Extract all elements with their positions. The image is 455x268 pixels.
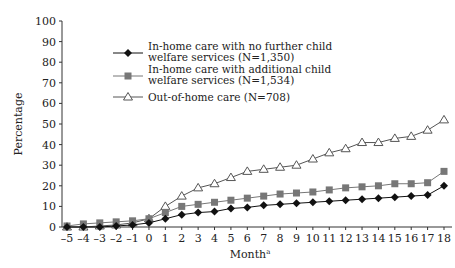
- series-line: [67, 171, 444, 226]
- diamond-marker: [124, 49, 132, 57]
- diamond-marker: [325, 197, 333, 205]
- x-tick-label: –2: [110, 232, 123, 245]
- diamond-marker: [342, 196, 350, 204]
- y-tick-label: 70: [42, 77, 56, 90]
- series-diamond: [63, 182, 448, 231]
- triangle-marker: [423, 126, 432, 133]
- y-tick-label: 60: [42, 97, 56, 110]
- x-axis-title: Montha: [230, 248, 271, 261]
- y-tick-label: 100: [35, 15, 56, 28]
- diamond-marker: [178, 211, 186, 219]
- triangle-marker: [440, 115, 449, 123]
- square-marker: [309, 188, 316, 195]
- square-marker: [244, 195, 251, 202]
- y-tick-label: 90: [42, 36, 56, 49]
- x-tick-label: 6: [244, 232, 251, 245]
- legend-label: Out-of-home care (N=708): [148, 91, 290, 103]
- y-tick-label: 30: [42, 159, 56, 172]
- x-tick-label: 15: [388, 232, 402, 245]
- legend: In-home care with no further childwelfar…: [113, 40, 332, 103]
- diamond-marker: [424, 191, 432, 199]
- square-marker: [227, 197, 234, 204]
- diamond-marker: [440, 182, 448, 190]
- x-tick-label: 5: [227, 232, 234, 245]
- square-marker: [277, 191, 284, 198]
- diamond-marker: [407, 192, 415, 200]
- diamond-marker: [309, 198, 317, 206]
- diamond-marker: [194, 209, 202, 217]
- square-marker: [293, 190, 300, 197]
- legend-item: In-home care with no further childwelfar…: [113, 40, 332, 63]
- diamond-marker: [292, 199, 300, 207]
- y-tick-label: 50: [42, 118, 56, 131]
- x-tick-label: 0: [145, 232, 152, 245]
- square-marker: [375, 182, 382, 189]
- legend-item: In-home care with additional childwelfar…: [113, 63, 331, 86]
- x-axis: –5–4–3–2–10123456789101112131415161718: [61, 227, 452, 245]
- series-triangle-open: [63, 115, 449, 230]
- square-marker: [359, 183, 366, 190]
- triangle-marker: [358, 138, 367, 146]
- x-tick-label: –5: [61, 232, 74, 245]
- diamond-marker: [243, 203, 251, 211]
- legend-item: Out-of-home care (N=708): [113, 91, 290, 103]
- square-marker: [441, 168, 448, 175]
- x-tick-label: 7: [260, 232, 267, 245]
- diamond-marker: [276, 200, 284, 208]
- x-tick-label: 16: [404, 232, 418, 245]
- line-chart: 0102030405060708090100 –5–4–3–2–10123456…: [0, 0, 455, 268]
- y-axis: 0102030405060708090100: [35, 15, 62, 234]
- series-square: [64, 168, 448, 230]
- y-tick-label: 40: [42, 139, 56, 152]
- legend-label: welfare services (N=1,534): [148, 74, 294, 86]
- x-tick-label: –1: [126, 232, 139, 245]
- square-marker: [391, 180, 398, 187]
- x-tick-label: 12: [339, 232, 353, 245]
- x-tick-label: 8: [277, 232, 284, 245]
- x-tick-label: 9: [293, 232, 300, 245]
- triangle-marker: [124, 93, 133, 101]
- diamond-marker: [374, 194, 382, 202]
- x-tick-label: 17: [421, 232, 435, 245]
- diamond-marker: [227, 204, 235, 212]
- square-marker: [342, 184, 349, 191]
- y-tick-label: 10: [42, 200, 56, 213]
- x-axis-title-superscript: a: [266, 248, 270, 256]
- legend-label: welfare services (N=1,350): [148, 51, 294, 63]
- triangle-marker: [177, 192, 186, 200]
- x-tick-label: –4: [77, 232, 90, 245]
- x-tick-label: 3: [195, 232, 202, 245]
- x-tick-label: 11: [322, 232, 336, 245]
- square-marker: [408, 180, 415, 187]
- x-tick-label: 4: [211, 232, 218, 245]
- x-tick-label: –3: [94, 232, 107, 245]
- y-tick-label: 0: [49, 221, 56, 234]
- x-tick-label: 2: [178, 232, 185, 245]
- triangle-marker: [161, 202, 170, 210]
- x-tick-label: 1: [162, 232, 169, 245]
- series-group: [63, 115, 449, 231]
- x-tick-label: 14: [371, 232, 385, 245]
- series-line: [67, 120, 444, 227]
- square-marker: [424, 179, 431, 186]
- x-tick-label: 10: [306, 232, 320, 245]
- x-axis-title-text: Month: [230, 248, 266, 261]
- series-line: [67, 186, 444, 227]
- square-marker: [178, 203, 185, 210]
- square-marker: [211, 199, 218, 206]
- diamond-marker: [391, 193, 399, 201]
- square-marker: [125, 73, 132, 80]
- x-tick-label: 13: [355, 232, 369, 245]
- diamond-marker: [211, 208, 219, 216]
- y-tick-label: 80: [42, 56, 56, 69]
- square-marker: [326, 186, 333, 193]
- y-tick-label: 20: [42, 180, 56, 193]
- diamond-marker: [260, 201, 268, 209]
- diamond-marker: [358, 195, 366, 203]
- y-axis-title: Percentage: [12, 93, 25, 156]
- square-marker: [260, 193, 267, 200]
- x-tick-label: 18: [437, 232, 451, 245]
- square-marker: [195, 201, 202, 208]
